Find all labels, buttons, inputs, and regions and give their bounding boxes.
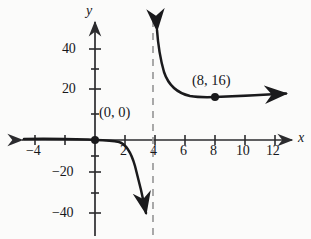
xtick-label-6: 6 [180, 144, 187, 158]
annotation-minimum: (8, 16) [192, 73, 231, 88]
marked-point-origin [91, 136, 99, 144]
graph-figure: y x −4 2 4 6 8 10 12 40 20 −20 −40 (0, 0… [0, 0, 311, 239]
y-axis-label: y [86, 4, 92, 18]
ytick-label-40: 40 [62, 42, 76, 56]
xtick-label-12: 12 [266, 144, 280, 158]
annotation-origin: (0, 0) [99, 105, 130, 120]
xtick-label-4: 4 [150, 144, 157, 158]
marked-point-minimum [211, 93, 219, 101]
xtick-label-2: 2 [120, 144, 127, 158]
curve-left-branch [24, 139, 146, 213]
ytick-label-neg20: −20 [52, 165, 73, 179]
xtick-label-8: 8 [210, 144, 217, 158]
graph-canvas [0, 0, 311, 239]
ytick-label-neg40: −40 [52, 206, 73, 220]
xtick-label-neg4: −4 [26, 144, 41, 158]
x-axis-label: x [298, 131, 304, 145]
ytick-label-20: 20 [62, 82, 76, 96]
xtick-label-10: 10 [236, 144, 250, 158]
